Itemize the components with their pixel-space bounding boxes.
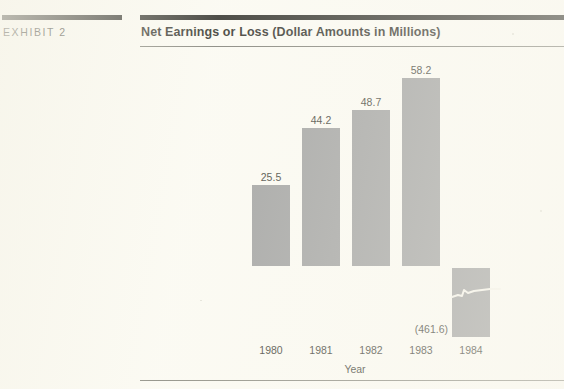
bar-chart-plot: 25.5 44.2 48.7 58.2 (461.6) 1980 1981 19… bbox=[0, 0, 564, 389]
bar-value-1983: 58.2 bbox=[402, 64, 440, 76]
bar-1983 bbox=[402, 78, 440, 266]
bar-1981 bbox=[302, 128, 340, 266]
bar-1982 bbox=[352, 110, 390, 266]
bar-value-1980: 25.5 bbox=[252, 171, 290, 183]
tick-label-1982: 1982 bbox=[352, 344, 390, 356]
bar-value-1984: (461.6) bbox=[398, 323, 448, 335]
tick-label-1983: 1983 bbox=[402, 344, 440, 356]
x-axis-title: Year bbox=[325, 363, 385, 375]
tick-label-1980: 1980 bbox=[252, 344, 290, 356]
exhibit-page: EXHIBIT 2 Net Earnings or Loss (Dollar A… bbox=[0, 0, 564, 389]
bar-1980 bbox=[252, 185, 290, 266]
tick-label-1984: 1984 bbox=[452, 344, 490, 356]
bar-value-1981: 44.2 bbox=[302, 114, 340, 126]
tick-label-1981: 1981 bbox=[302, 344, 340, 356]
bar-1984 bbox=[452, 268, 490, 337]
bar-value-1982: 48.7 bbox=[352, 96, 390, 108]
